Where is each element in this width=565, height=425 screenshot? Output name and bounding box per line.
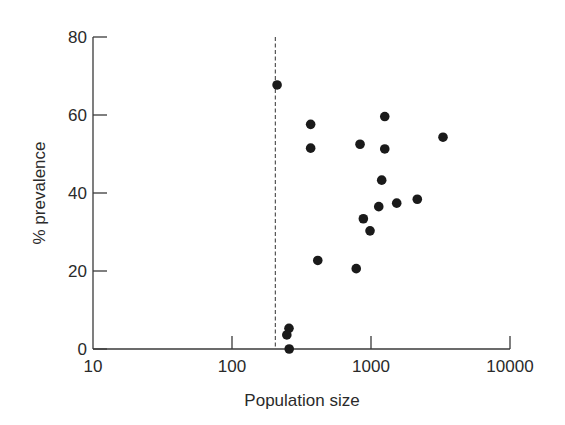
- data-point: [380, 144, 390, 154]
- data-point: [272, 80, 282, 90]
- data-points: [272, 80, 448, 354]
- x-tick-label: 1000: [352, 357, 390, 376]
- y-ticks: 020406080: [68, 28, 107, 359]
- scatter-chart: 020406080 10100100010000 Population size…: [0, 0, 565, 425]
- data-point: [365, 226, 375, 236]
- y-tick-label: 40: [68, 184, 87, 203]
- x-tick-label: 10000: [486, 357, 533, 376]
- data-point: [284, 344, 294, 354]
- data-point: [374, 202, 384, 212]
- data-point: [282, 330, 292, 340]
- data-point: [438, 132, 448, 142]
- data-point: [412, 194, 422, 204]
- y-axis-label: % prevalence: [30, 141, 49, 244]
- data-point: [351, 264, 361, 274]
- data-point: [306, 120, 316, 130]
- data-point: [355, 139, 365, 149]
- data-point: [392, 198, 402, 208]
- y-tick-label: 60: [68, 106, 87, 125]
- data-point: [313, 256, 323, 266]
- x-tick-label: 10: [84, 357, 103, 376]
- x-tick-label: 100: [218, 357, 246, 376]
- y-tick-label: 80: [68, 28, 87, 47]
- data-point: [306, 143, 316, 153]
- axes: [93, 37, 510, 349]
- data-point: [377, 175, 387, 185]
- y-tick-label: 20: [68, 262, 87, 281]
- data-point: [380, 112, 390, 122]
- x-ticks: 10100100010000: [84, 336, 534, 376]
- x-axis-label: Population size: [244, 391, 359, 410]
- data-point: [359, 214, 369, 224]
